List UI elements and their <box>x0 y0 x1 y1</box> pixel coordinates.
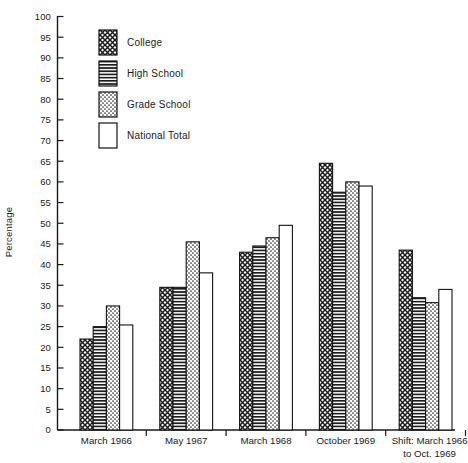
bar <box>186 242 199 430</box>
bar <box>80 339 93 430</box>
y-axis-tick-label: 95 <box>40 32 51 43</box>
y-axis-tick-label: 10 <box>40 383 51 394</box>
y-axis-tick-label: 45 <box>40 238 51 249</box>
y-axis-title: Percentage <box>3 207 14 258</box>
y-axis-tick-label: 50 <box>40 218 51 229</box>
bar <box>106 306 119 430</box>
y-axis-tick-label: 20 <box>40 342 51 353</box>
y-axis-ticks: 0510152025303540455055606570758085909510… <box>35 11 64 436</box>
bars <box>80 163 452 430</box>
y-axis-tick-label: 15 <box>40 362 51 373</box>
legend-label: National Total <box>127 130 190 141</box>
legend-swatch <box>99 92 117 117</box>
x-axis-labels: March 1966May 1967March 1968October 1969… <box>81 435 468 459</box>
x-axis-label: October 1969 <box>316 435 375 446</box>
y-axis-tick-label: 25 <box>40 321 51 332</box>
chart-canvas: 0510152025303540455055606570758085909510… <box>0 0 468 463</box>
y-axis-tick-label: 35 <box>40 280 51 291</box>
x-axis-label: March 1968 <box>240 435 291 446</box>
bar <box>359 186 372 430</box>
y-axis-tick-label: 85 <box>40 73 51 84</box>
legend-label: College <box>127 37 163 48</box>
y-axis-tick-label: 100 <box>35 11 51 22</box>
legend-label: High School <box>127 68 183 79</box>
bar <box>120 325 133 430</box>
bar <box>240 252 253 430</box>
y-axis-tick-label: 90 <box>40 52 51 63</box>
y-axis-tick-label: 70 <box>40 135 51 146</box>
bar <box>279 225 292 430</box>
y-axis-tick-label: 80 <box>40 94 51 105</box>
x-axis-label: March 1966 <box>81 435 132 446</box>
bar <box>173 287 186 430</box>
bar <box>346 182 359 430</box>
bar <box>160 287 173 430</box>
legend-swatch <box>99 30 117 55</box>
legend-swatch <box>99 61 117 86</box>
bar-chart: 0510152025303540455055606570758085909510… <box>0 0 468 463</box>
y-axis-tick-label: 75 <box>40 114 51 125</box>
bar <box>93 327 106 430</box>
legend-swatch <box>99 123 117 148</box>
y-axis-tick-label: 0 <box>46 424 51 435</box>
x-axis-label: to Oct. 1969 <box>403 448 456 459</box>
y-axis-tick-label: 65 <box>40 156 51 167</box>
legend: CollegeHigh SchoolGrade SchoolNational T… <box>99 30 191 148</box>
bar <box>253 246 266 430</box>
y-axis-tick-label: 55 <box>40 197 51 208</box>
bar <box>333 192 346 430</box>
bar <box>266 238 279 430</box>
bar <box>399 250 412 430</box>
y-axis-tick-label: 40 <box>40 259 51 270</box>
bar <box>319 163 332 430</box>
x-axis-label: May 1967 <box>165 435 208 446</box>
bar <box>199 273 212 430</box>
y-axis-tick-label: 60 <box>40 176 51 187</box>
bar <box>426 303 439 430</box>
bar <box>439 289 452 430</box>
y-axis-tick-label: 5 <box>46 404 51 415</box>
bar <box>412 298 425 430</box>
legend-label: Grade School <box>127 99 191 110</box>
y-axis-tick-label: 30 <box>40 300 51 311</box>
x-axis-label: Shift: March 1966 <box>392 435 468 446</box>
